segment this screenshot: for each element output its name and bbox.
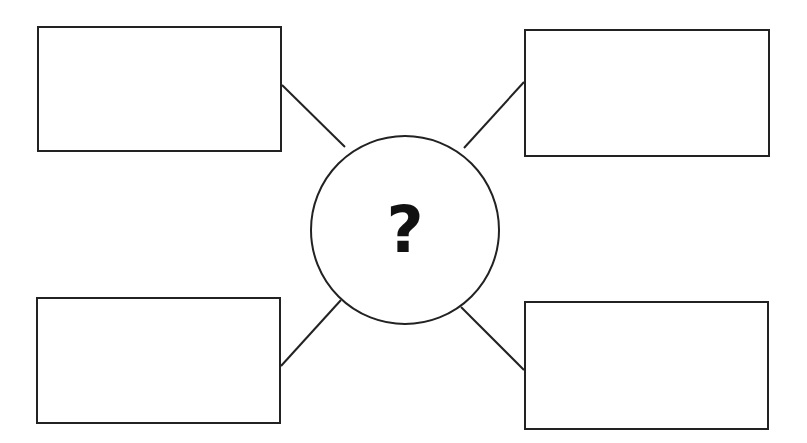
connector-bottom-left bbox=[281, 300, 341, 366]
box-top-right bbox=[524, 29, 770, 157]
box-bottom-right bbox=[524, 301, 769, 430]
connector-top-right bbox=[464, 82, 524, 148]
connector-top-left bbox=[282, 85, 345, 147]
center-circle: ? bbox=[310, 135, 500, 325]
question-mark: ? bbox=[386, 198, 423, 262]
box-bottom-left bbox=[36, 297, 281, 424]
spider-diagram: ? bbox=[0, 0, 807, 443]
connector-bottom-right bbox=[461, 307, 524, 370]
box-top-left bbox=[37, 26, 282, 152]
